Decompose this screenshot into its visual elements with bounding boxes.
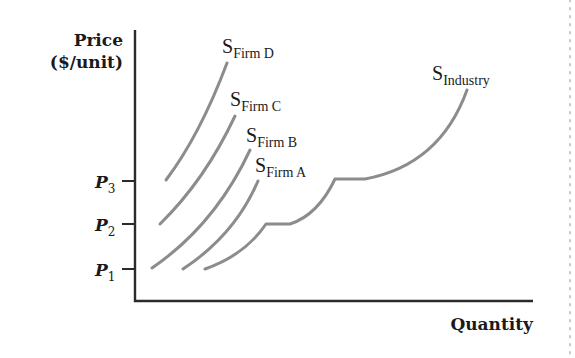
y-axis-title-line2: ($/unit) xyxy=(50,52,123,72)
supply-chart: Price ($/unit) P3 P2 P1 Quantity SFirm D… xyxy=(0,0,575,358)
curve-firm-d xyxy=(166,63,227,180)
curve-firm-b xyxy=(152,150,250,268)
y-tick-p1: P1 xyxy=(94,260,135,284)
y-axis-title-line1: Price xyxy=(74,30,124,50)
label-firm-a: SFirm A xyxy=(255,154,307,180)
y-tick-label-p2: P2 xyxy=(94,215,115,239)
y-tick-label-p3: P3 xyxy=(94,172,115,196)
label-firm-b: SFirm B xyxy=(246,124,297,150)
label-firm-c: SFirm C xyxy=(230,88,281,114)
label-industry: SIndustry xyxy=(432,62,490,88)
y-tick-label-p1: P1 xyxy=(94,260,115,284)
y-tick-p3: P3 xyxy=(94,172,135,196)
x-axis-title: Quantity xyxy=(450,314,534,334)
curve-firm-a xyxy=(183,181,258,269)
y-tick-p2: P2 xyxy=(94,215,135,239)
label-firm-d: SFirm D xyxy=(222,35,274,61)
curve-industry xyxy=(205,90,467,269)
